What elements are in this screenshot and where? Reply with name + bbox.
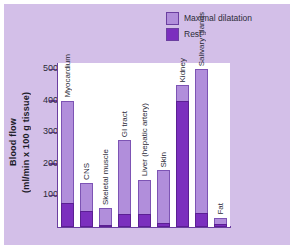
bar-group: GI tract (118, 63, 131, 227)
bar-group: Fat (214, 63, 227, 227)
bar-maximal-dilatation (157, 170, 170, 227)
bar-rest (80, 211, 93, 227)
y-tick-label: 300 (28, 127, 58, 136)
bar-rest (157, 223, 170, 227)
y-tick-label: 200 (28, 159, 58, 168)
legend-item-maximal-dilatation: Maximal dilatation (166, 12, 284, 24)
bar-category-label: Myocardium (63, 54, 72, 98)
bar-group: CNS (80, 63, 93, 227)
bar-category-label: Skeletal muscle (101, 149, 110, 205)
chart-figure: Maximal dilatation Rest Blood flow (ml/m… (4, 4, 290, 245)
y-tick-label: 400 (28, 96, 58, 105)
plot-area: MyocardiumCNSSkeletal muscleGI tractLive… (58, 63, 230, 227)
bar-group: Skin (157, 63, 170, 227)
bar-category-label: Liver (hepatic artery) (140, 103, 149, 176)
legend-swatch-maximal-dilatation (166, 12, 179, 25)
bar-maximal-dilatation (195, 69, 208, 227)
bar-rest (138, 214, 151, 227)
y-tick-label-wrap: 200 (16, 159, 58, 169)
bar-rest (99, 225, 112, 227)
bar-rest (214, 224, 227, 227)
bar-group: Myocardium (61, 63, 74, 227)
bar-category-label: Skin (159, 152, 168, 168)
y-tick-label-wrap: 500 (16, 64, 58, 74)
bar-category-label: Kidney (178, 58, 187, 82)
bar-category-label: Fat (216, 203, 225, 215)
y-tick-label-wrap: 400 (16, 96, 58, 106)
y-tick-label-wrap: 100 (16, 190, 58, 200)
bar-rest (61, 203, 74, 227)
bar-group: Liver (hepatic artery) (138, 63, 151, 227)
y-tick-label: 500 (28, 64, 58, 73)
y-tick-label: 100 (28, 190, 58, 199)
y-tick-label-wrap: 300 (16, 127, 58, 137)
bar-rest (118, 214, 131, 227)
legend-item-rest: Rest (166, 28, 284, 40)
bar-rest (176, 101, 189, 227)
bar-category-label: GI tract (120, 111, 129, 137)
bar-group: Kidney (176, 63, 189, 227)
bar-category-label: Salivary glands (197, 12, 206, 66)
legend-label-maximal-dilatation: Maximal dilatation (184, 13, 252, 24)
bar-rest (195, 213, 208, 227)
bar-group: Skeletal muscle (99, 63, 112, 227)
bar-group: Salivary glands (195, 63, 208, 227)
bar-category-label: CNS (82, 163, 91, 180)
chart-legend: Maximal dilatation Rest (166, 12, 284, 44)
legend-swatch-rest (166, 28, 179, 41)
